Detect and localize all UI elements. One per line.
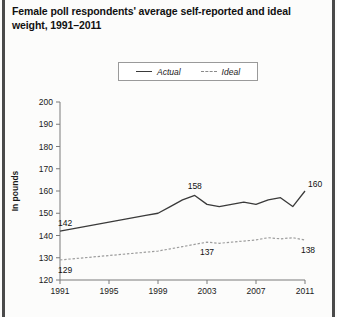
y-tick-label: 170 (39, 164, 53, 174)
x-tick-label: 1995 (100, 286, 119, 296)
series-line-actual (60, 191, 305, 231)
x-axis-ticks: 199119951999200320072011 (51, 280, 315, 296)
chart-title: Female poll respondents' average self-re… (12, 5, 310, 32)
legend-entry-ideal: Ideal (201, 67, 240, 77)
y-tick-label: 150 (39, 208, 53, 218)
y-axis-title: In pounds (10, 170, 20, 211)
point-label-ideal-2003: 137 (200, 247, 214, 257)
x-tick-label: 2003 (198, 286, 217, 296)
y-tick-label: 140 (39, 231, 53, 241)
x-tick-label: 2011 (296, 286, 315, 296)
legend-label-ideal: Ideal (222, 67, 240, 77)
y-tick-label: 200 (39, 97, 53, 107)
y-axis-ticks: 200190180170160150140130120 (39, 97, 60, 285)
x-tick-label: 1991 (51, 286, 70, 296)
y-tick-label: 130 (39, 253, 53, 263)
legend-line-icon-ideal (201, 71, 217, 72)
y-tick-label: 180 (39, 142, 53, 152)
series-line-ideal (60, 238, 305, 260)
y-tick-label: 120 (39, 275, 53, 285)
point-label-ideal-1991: 129 (58, 265, 72, 275)
data-point-labels: 142158160129137138 (58, 179, 322, 275)
chart-page: Female poll respondents' average self-re… (0, 0, 337, 317)
x-tick-label: 2007 (247, 286, 266, 296)
line-chart: 200190180170160150140130120 199119951999… (0, 88, 337, 303)
legend-line-icon-actual (136, 71, 152, 72)
legend-label-actual: Actual (157, 67, 181, 77)
legend-entry-actual: Actual (136, 67, 181, 77)
point-label-actual-2011: 160 (308, 179, 322, 189)
plot-area: 200190180170160150140130120 199119951999… (0, 88, 337, 303)
point-label-ideal-2011: 138 (301, 245, 315, 255)
point-label-actual-1991: 142 (58, 218, 72, 228)
y-tick-label: 160 (39, 186, 53, 196)
y-tick-label: 190 (39, 119, 53, 129)
chart-legend: Actual Ideal (118, 62, 258, 81)
point-label-actual-2002: 158 (188, 181, 202, 191)
x-tick-label: 1999 (149, 286, 168, 296)
